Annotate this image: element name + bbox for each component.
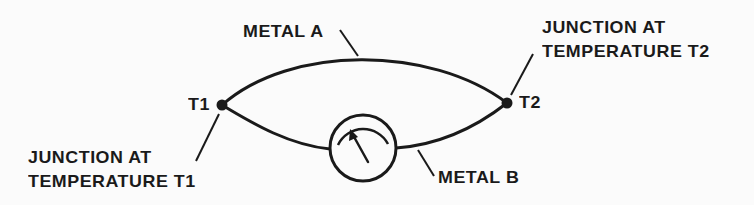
metal-b-leader (418, 150, 434, 176)
metal-b-label: METAL B (438, 166, 519, 190)
junction-t2-line2: TEMPERATURE T2 (542, 40, 710, 64)
junction-t2-label: JUNCTION AT TEMPERATURE T2 (542, 16, 710, 64)
t2-text: T2 (519, 91, 541, 115)
t2-label: T2 (519, 91, 541, 115)
metal-b-text: METAL B (438, 166, 519, 190)
t1-label: T1 (188, 93, 210, 117)
galvanometer-icon (330, 115, 396, 181)
metal-a-wire (222, 60, 507, 105)
junction-t1-dot (217, 100, 228, 111)
junction-t1-line1: JUNCTION AT (28, 146, 196, 170)
t1-text: T1 (188, 93, 210, 117)
junction-t1-label: JUNCTION AT TEMPERATURE T1 (28, 146, 196, 194)
junction-t2-dot (502, 98, 513, 109)
metal-a-text: METAL A (243, 20, 324, 44)
junction-t1-line2: TEMPERATURE T1 (28, 170, 196, 194)
metal-b-wire-left (222, 105, 330, 149)
junction-t2-line1: JUNCTION AT (542, 16, 710, 40)
metal-b-wire-right (396, 103, 507, 148)
junction-t2-leader (511, 54, 533, 95)
junction-t1-leader (196, 114, 219, 161)
metal-a-label: METAL A (243, 20, 324, 44)
metal-a-leader (340, 30, 358, 56)
